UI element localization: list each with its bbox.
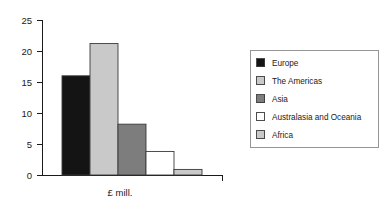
legend-swatch-europe [257, 59, 265, 67]
legend-swatch-africa [257, 131, 265, 139]
bar-chart-figure: 0 5 10 15 20 25 £ mill. Europe The Ameri… [0, 0, 389, 212]
bar-australasia-and-oceania [146, 151, 174, 175]
legend-label-europe: Europe [272, 59, 299, 68]
legend-label-australasia-and-oceania: Australasia and Oceania [272, 113, 362, 122]
y-tick-label-10: 10 [21, 108, 32, 119]
legend-swatch-australasia-and-oceania [257, 113, 265, 121]
legend-label-africa: Africa [272, 131, 293, 140]
legend-swatch-asia [257, 95, 265, 103]
bar-asia [118, 124, 146, 175]
bar-africa [174, 169, 202, 175]
legend-label-the-americas: The Americas [272, 77, 322, 86]
y-tick-label-25: 25 [21, 15, 32, 26]
y-tick-label-15: 15 [21, 77, 32, 88]
y-tick-label-0: 0 [27, 170, 32, 181]
legend-swatch-the-americas [257, 77, 265, 85]
y-tick-label-5: 5 [27, 139, 32, 150]
x-axis-title: £ mill. [108, 187, 133, 198]
bar-europe [62, 76, 90, 175]
y-tick-label-20: 20 [21, 46, 32, 57]
legend-label-asia: Asia [272, 95, 288, 104]
chart-canvas: 0 5 10 15 20 25 £ mill. Europe The Ameri… [0, 0, 389, 212]
chart-background [0, 0, 389, 212]
bar-the-americas [90, 44, 118, 175]
